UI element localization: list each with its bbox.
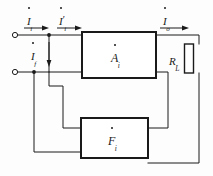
label-output-current: Io	[163, 12, 170, 31]
label-feedback-current: If	[31, 47, 37, 66]
junction-dot-top	[47, 33, 51, 37]
arrow-net-input-current-head	[75, 26, 82, 31]
label-amplifier-block: Ai	[111, 49, 120, 68]
phasor-dot-icon	[32, 42, 34, 44]
phasor-dot-icon	[60, 7, 62, 9]
junction-dot-bottom	[32, 70, 36, 74]
phasor-dot-icon	[28, 7, 30, 9]
label-input-current: Ii	[27, 12, 33, 31]
arrow-feedback-current-head	[47, 60, 52, 67]
wire-load-return	[148, 73, 199, 163]
phasor-dot-icon	[114, 44, 116, 46]
label-net-input-current: I′i	[59, 12, 67, 31]
arrow-output-current-head	[182, 26, 189, 31]
input-terminal-bottom	[12, 69, 17, 74]
load-resistor-symbol	[185, 44, 194, 73]
label-feedback-block: Fi	[108, 132, 117, 151]
wire-amp-out-to-load	[156, 35, 199, 44]
phasor-dot-icon	[164, 7, 166, 9]
feedback-amplifier-diagram: Ii I′i Io If Ai Fi RL	[0, 0, 213, 176]
label-load-resistor: RL	[169, 52, 180, 71]
wire-feedback-return-rail	[34, 72, 81, 152]
phasor-dot-icon	[111, 127, 113, 129]
wire-amp-out-to-feedback	[148, 72, 168, 128]
input-terminal-top	[12, 32, 17, 37]
arrow-input-current-head	[42, 26, 49, 31]
wire-feedback-to-input-node	[49, 72, 81, 128]
